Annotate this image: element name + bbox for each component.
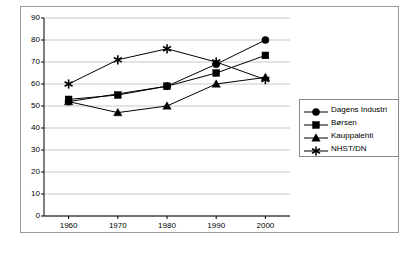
legend-marker-star-icon <box>303 143 329 155</box>
series-1 <box>65 52 269 103</box>
chart-legend: Dagens IndustriBørsenKauppalehtiNHST/DN <box>299 99 399 157</box>
y-tick-label-0: 0 <box>18 211 40 220</box>
y-tick-label-30: 30 <box>18 145 40 154</box>
x-tick-label-1970: 1970 <box>100 221 136 230</box>
x-tick-label-2000: 2000 <box>247 221 283 230</box>
legend-label-3: NHST/DN <box>329 144 367 153</box>
series-3 <box>65 44 270 88</box>
legend-item-2[interactable]: Kauppalehti <box>303 129 395 142</box>
x-tick-label-1960: 1960 <box>51 221 87 230</box>
legend-item-1[interactable]: Børsen <box>303 116 395 129</box>
x-tick-label-1990: 1990 <box>198 221 234 230</box>
y-tick-label-40: 40 <box>18 123 40 132</box>
y-tick-label-60: 60 <box>18 79 40 88</box>
chart-figure: 9080706050403020100 19601970198019902000… <box>0 0 407 255</box>
legend-item-0[interactable]: Dagens Industri <box>303 103 395 116</box>
y-tick-label-80: 80 <box>18 35 40 44</box>
legend-label-2: Kauppalehti <box>329 131 373 140</box>
series-2 <box>64 73 269 116</box>
series-3-star-marker <box>163 44 171 53</box>
y-tick-label-10: 10 <box>18 189 40 198</box>
series-1-square-marker <box>213 70 220 77</box>
y-tick-label-90: 90 <box>18 13 40 22</box>
y-tick-label-20: 20 <box>18 167 40 176</box>
legend-label-0: Dagens Industri <box>329 105 387 114</box>
y-tick-label-70: 70 <box>18 57 40 66</box>
legend-marker-triangle-icon <box>303 130 329 142</box>
legend-label-1: Børsen <box>329 118 357 127</box>
legend-item-3[interactable]: NHST/DN <box>303 142 395 155</box>
series-3-star-marker <box>114 55 122 64</box>
series-1-square-marker <box>114 92 121 99</box>
series-1-square-marker <box>164 83 171 90</box>
legend-marker-square-icon <box>303 117 329 129</box>
legend-marker-circle-icon <box>303 104 329 116</box>
legend-0-circle-marker <box>312 108 319 115</box>
x-tick-label-1980: 1980 <box>149 221 185 230</box>
legend-1-square-marker <box>313 121 320 128</box>
series-0-circle-marker <box>262 36 269 43</box>
series-1-square-marker <box>262 52 269 59</box>
y-tick-label-50: 50 <box>18 101 40 110</box>
